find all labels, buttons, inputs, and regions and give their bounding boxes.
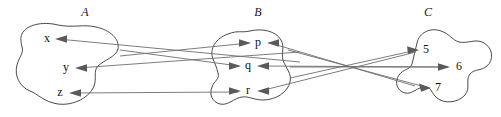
element-label-p: p (255, 35, 261, 49)
set-mapping-diagram: A B C (0, 0, 501, 117)
element-label-5: 5 (423, 42, 429, 56)
element-label-6: 6 (456, 59, 462, 73)
set-label-A: A (80, 5, 89, 19)
element-label-7: 7 (435, 80, 441, 94)
element-label-z: z (57, 85, 62, 99)
element-label-r: r (246, 83, 250, 97)
set-label-B: B (254, 5, 262, 19)
diagram-canvas: A B C (0, 0, 501, 117)
element-label-q: q (245, 58, 251, 72)
element-label-x: x (44, 31, 50, 45)
set-label-C: C (424, 5, 433, 19)
element-label-y: y (63, 60, 69, 74)
